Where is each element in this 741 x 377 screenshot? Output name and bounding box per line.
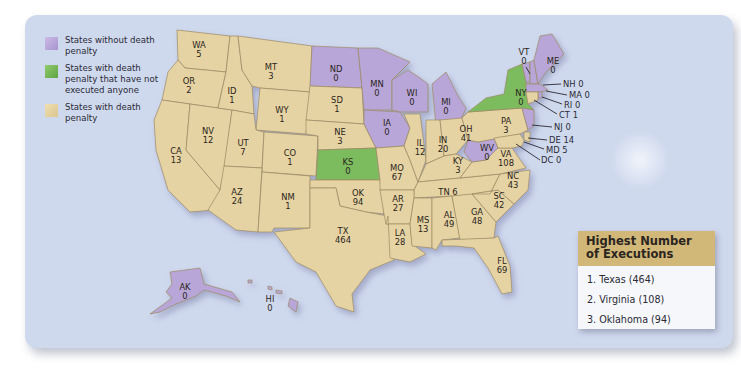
svg-text:IN20: IN20: [438, 135, 449, 154]
svg-text:MD 5: MD 5: [546, 145, 568, 155]
state-WA[interactable]: [177, 30, 230, 72]
top-executions-item: 1. Texas (464): [587, 270, 706, 290]
state-DE[interactable]: [524, 132, 530, 142]
svg-text:MA 0: MA 0: [569, 90, 590, 100]
svg-text:ME0: ME0: [547, 56, 560, 75]
state-HI-islands-3: [248, 280, 252, 283]
svg-text:AL49: AL49: [444, 210, 455, 229]
svg-text:HI0: HI0: [266, 294, 275, 313]
svg-text:MO67: MO67: [390, 163, 404, 182]
top-executions-list: 1. Texas (464) 2. Virginia (108) 3. Okla…: [578, 266, 715, 334]
top-executions-item: 2. Virginia (108): [587, 290, 706, 310]
svg-text:SC42: SC42: [493, 191, 504, 210]
state-HI-islands-2: [276, 290, 282, 294]
top-executions-header: Highest Number of Executions: [578, 231, 715, 266]
svg-text:OK94: OK94: [352, 188, 365, 207]
top-executions-item: 3. Oklahoma (94): [587, 310, 706, 330]
svg-text:NJ 0: NJ 0: [554, 122, 571, 132]
svg-text:DE 14: DE 14: [549, 135, 574, 145]
svg-text:CT 1: CT 1: [559, 110, 578, 120]
svg-text:NC43: NC43: [507, 171, 519, 190]
svg-text:OH41: OH41: [460, 124, 473, 143]
svg-text:GA48: GA48: [471, 207, 483, 226]
svg-text:LA28: LA28: [395, 228, 406, 247]
svg-text:FL69: FL69: [497, 256, 508, 275]
svg-text:TN 6: TN 6: [437, 187, 457, 197]
state-CT[interactable]: [526, 92, 538, 104]
state-RI[interactable]: [538, 92, 542, 98]
svg-text:CA13: CA13: [170, 146, 182, 165]
svg-text:MS13: MS13: [417, 215, 430, 234]
svg-text:RI 0: RI 0: [564, 100, 580, 110]
state-NM[interactable]: [258, 172, 310, 232]
svg-text:AZ24: AZ24: [231, 187, 243, 206]
svg-text:DC 0: DC 0: [541, 155, 561, 165]
state-HI-islands: [268, 286, 272, 290]
svg-text:AR27: AR27: [392, 194, 404, 213]
top-executions-title: Highest Number of Executions: [586, 235, 707, 261]
top-executions-box: Highest Number of Executions 1. Texas (4…: [578, 231, 715, 329]
state-HI[interactable]: [288, 298, 298, 312]
svg-text:NH 0: NH 0: [563, 79, 584, 89]
state-AK[interactable]: [150, 268, 240, 314]
svg-text:NV12: NV12: [202, 126, 214, 145]
